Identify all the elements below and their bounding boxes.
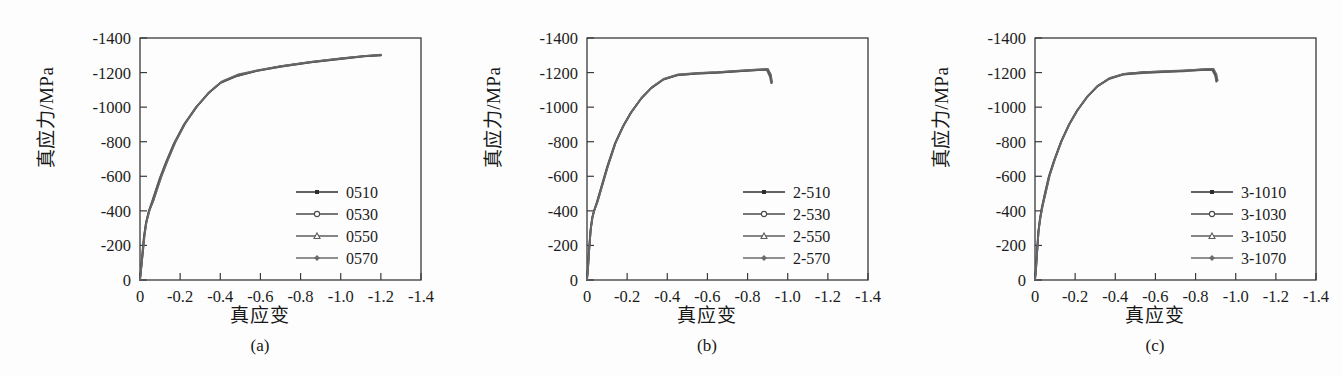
y-tick-label: -1400 [93, 29, 132, 48]
legend-label: 3-1050 [1241, 228, 1286, 245]
legend-marker-filled-diamond-icon [314, 255, 320, 261]
data-curve [587, 69, 772, 280]
legend-label: 2-570 [793, 250, 830, 267]
legend-marker-open-circle-icon [314, 211, 319, 216]
y-tick-label: -200 [996, 236, 1026, 255]
legend-label: 0530 [346, 206, 378, 223]
x-axis-label-c: 真应变 [985, 300, 1325, 327]
legend-label: 0570 [346, 250, 378, 267]
x-axis-label-b: 真应变 [537, 300, 877, 327]
y-tick-label: -1400 [540, 29, 579, 48]
legend-label: 3-1070 [1241, 250, 1286, 267]
legend-marker-filled-diamond-icon [761, 255, 767, 261]
y-tick-label: -200 [548, 236, 578, 255]
legend-marker-filled-square-icon [1210, 190, 1214, 194]
data-curve [1035, 69, 1218, 280]
legend-label: 3-1030 [1241, 206, 1286, 223]
legend-label: 2-510 [793, 184, 830, 201]
legend-marker-open-circle-icon [1209, 211, 1214, 216]
y-tick-label: -1400 [988, 29, 1027, 48]
legend-marker-filled-square-icon [762, 190, 766, 194]
y-tick-label: -400 [996, 202, 1026, 221]
data-curve [587, 70, 771, 280]
y-tick-label: -800 [996, 133, 1026, 152]
panel-b: 0-200-400-600-800-1000-1200-14000-0.2-0.… [447, 0, 894, 376]
legend-marker-open-triangle-icon [761, 233, 767, 239]
y-tick-label: -600 [548, 167, 578, 186]
data-curve [1035, 69, 1217, 280]
panel-a: 0-200-400-600-800-1000-1200-14000-0.2-0.… [0, 0, 447, 376]
legend-label: 3-1010 [1241, 184, 1286, 201]
legend-label: 2-530 [793, 206, 830, 223]
legend-marker-filled-square-icon [315, 190, 319, 194]
figure-stress-strain-curves: 0-200-400-600-800-1000-1200-14000-0.2-0.… [0, 0, 1342, 376]
y-tick-label: -1000 [93, 98, 132, 117]
y-tick-label: -1200 [988, 64, 1027, 83]
y-axis-label-b: 真应力/MPa [478, 48, 505, 188]
y-tick-label: -1200 [540, 64, 579, 83]
y-axis-label-c: 真应力/MPa [926, 48, 953, 188]
panel-caption-a: (a) [90, 336, 430, 356]
data-curve [1035, 69, 1217, 280]
y-tick-label: -200 [101, 236, 131, 255]
legend-label: 0550 [346, 228, 378, 245]
y-tick-label: -600 [996, 167, 1026, 186]
data-curve [140, 55, 381, 280]
panel-caption-c: (c) [985, 336, 1325, 356]
y-tick-label: -400 [548, 202, 578, 221]
legend-marker-filled-diamond-icon [1209, 255, 1215, 261]
x-axis-label-a: 真应变 [90, 300, 430, 327]
y-axis-label-a: 真应力/MPa [31, 48, 58, 188]
panel-caption-b: (b) [537, 336, 877, 356]
legend-marker-open-triangle-icon [314, 233, 320, 239]
data-curve [140, 55, 381, 280]
y-tick-label: -1000 [540, 98, 579, 117]
data-curve [140, 55, 381, 280]
y-tick-label: 0 [123, 271, 131, 290]
legend-label: 2-550 [793, 228, 830, 245]
data-curve [140, 55, 381, 280]
legend-marker-open-triangle-icon [1209, 233, 1215, 239]
legend-label: 0510 [346, 184, 378, 201]
y-tick-label: -600 [101, 167, 131, 186]
panel-c: 0-200-400-600-800-1000-1200-14000-0.2-0.… [895, 0, 1342, 376]
data-curve [587, 69, 772, 280]
y-tick-label: -800 [548, 133, 578, 152]
y-tick-label: -400 [101, 202, 131, 221]
y-tick-label: 0 [570, 271, 578, 290]
y-tick-label: -800 [101, 133, 131, 152]
legend-marker-open-circle-icon [761, 211, 766, 216]
plot-frame [140, 38, 421, 280]
data-curve [587, 69, 772, 280]
y-tick-label: -1000 [988, 98, 1027, 117]
y-tick-label: 0 [1018, 271, 1026, 290]
y-tick-label: -1200 [93, 64, 132, 83]
data-curve [1035, 70, 1216, 280]
